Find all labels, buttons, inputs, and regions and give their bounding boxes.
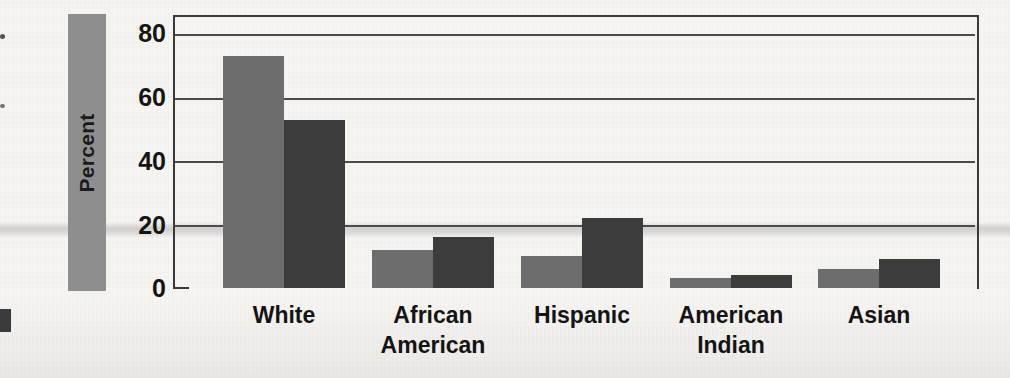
chart-figure: Percent 80 60 40 20 0 WhiteAfrican Ameri… <box>0 0 1010 378</box>
y-tick-label: 40 <box>106 147 166 176</box>
scan-speck-icon <box>0 104 5 108</box>
bar-series-a-0 <box>223 56 284 288</box>
bar-series-a-2 <box>521 256 582 288</box>
bar-series-a-4 <box>818 269 879 288</box>
bar-series-a-3 <box>670 278 731 288</box>
y-axis-title: Percent <box>75 113 99 192</box>
scan-edge-block <box>0 309 11 332</box>
category-label: Asian <box>848 300 911 330</box>
category-label: Hispanic <box>534 300 630 330</box>
y-tick-label: 20 <box>106 211 166 240</box>
y-tick-label: 60 <box>106 83 166 112</box>
plot-frame-left <box>173 15 175 289</box>
bar-series-b-1 <box>433 237 494 288</box>
bar-series-b-0 <box>284 120 345 288</box>
y-axis-tick-labels: 80 60 40 20 0 <box>108 0 166 378</box>
y-tick-label: 0 <box>106 274 166 303</box>
gridline-80 <box>175 34 975 36</box>
scan-speck-icon <box>0 34 5 39</box>
y-tick-label: 80 <box>106 19 166 48</box>
plot-frame-top <box>173 15 979 17</box>
plot-area <box>173 15 979 289</box>
bar-series-b-4 <box>879 259 940 288</box>
bar-series-a-1 <box>372 250 433 288</box>
category-label: White <box>253 300 316 330</box>
gridline-60 <box>175 98 975 100</box>
category-label: African American <box>381 300 486 360</box>
bar-series-b-3 <box>731 275 792 288</box>
y-axis-title-block: Percent <box>68 14 106 291</box>
category-label: American Indian <box>679 300 784 360</box>
plot-frame-right <box>977 15 979 289</box>
bar-series-b-2 <box>582 218 643 288</box>
x-axis-origin-tick <box>173 287 189 289</box>
